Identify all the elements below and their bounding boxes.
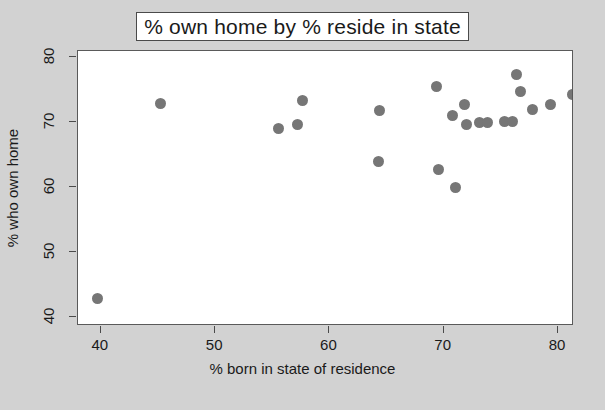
y-axis-tick-label: 80 — [40, 48, 57, 65]
x-axis-tick — [328, 326, 329, 333]
page-title: % own home by % reside in state — [144, 15, 461, 39]
chart-title-box: % own home by % reside in state — [136, 12, 469, 41]
y-axis-tick — [69, 186, 76, 187]
data-point — [374, 105, 385, 116]
data-point — [459, 99, 470, 110]
y-axis-tick-label: 50 — [40, 243, 57, 260]
data-point — [507, 116, 518, 127]
data-point — [545, 99, 556, 110]
data-point — [292, 119, 303, 130]
data-point — [92, 293, 103, 304]
data-point — [450, 182, 461, 193]
y-axis-tick — [69, 251, 76, 252]
data-point — [515, 86, 526, 97]
x-axis-tick-label: 80 — [549, 336, 566, 353]
data-point — [433, 164, 444, 175]
x-axis-tick-label: 50 — [206, 336, 223, 353]
x-axis-tick-label: 60 — [320, 336, 337, 353]
data-point — [155, 98, 166, 109]
x-axis-tick-label: 40 — [92, 336, 109, 353]
data-point — [273, 123, 284, 134]
plot-panel — [77, 50, 573, 325]
x-axis-tick — [214, 326, 215, 333]
x-axis-tick — [443, 326, 444, 333]
x-axis-tick — [557, 326, 558, 333]
y-axis-tick — [69, 121, 76, 122]
data-point — [461, 119, 472, 130]
y-axis-tick-label: 70 — [40, 113, 57, 130]
data-point — [373, 156, 384, 167]
data-point — [511, 69, 522, 80]
x-axis-tick — [100, 326, 101, 333]
x-axis-title: % born in state of residence — [0, 360, 605, 377]
data-point — [447, 110, 458, 121]
data-point — [527, 104, 538, 115]
data-point — [297, 95, 308, 106]
data-point — [567, 89, 573, 100]
y-axis-tick — [69, 316, 76, 317]
y-axis-tick-label: 40 — [40, 308, 57, 325]
x-axis-tick-label: 70 — [434, 336, 451, 353]
scatter-plot-figure: % own home by % reside in state 40506070… — [0, 0, 605, 410]
data-point — [482, 117, 493, 128]
y-axis-tick — [69, 56, 76, 57]
data-point — [431, 81, 442, 92]
y-axis-tick-label: 60 — [40, 178, 57, 195]
y-axis-title: % who own home — [4, 129, 21, 247]
